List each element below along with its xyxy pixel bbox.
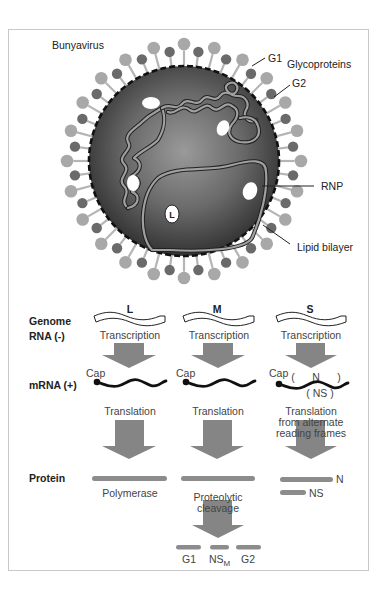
transcription-arrow-l [102, 343, 156, 368]
g2-glycoprotein-head [280, 198, 290, 208]
transcription-arrow-s [285, 343, 337, 368]
bunyavirus-diagram: L Bunyavirus G1 Glycoproteins G2 RNP Lip… [0, 0, 379, 598]
g2-glycoprotein-head [246, 69, 256, 79]
g1-glycoprotein-head [208, 42, 221, 55]
g2-glycoprotein-head [112, 69, 122, 79]
g1-glycoprotein-head [95, 237, 108, 250]
g1-product-label: G1 [182, 553, 196, 565]
g1-glycoprotein-head [147, 42, 160, 55]
polymerase-label: Polymerase [102, 487, 158, 499]
segment-s-column: S Transcription Cap ( N ) ( NS ) Transla… [269, 303, 348, 499]
translation-arrow-m [190, 420, 244, 459]
reading-frames-label-s: reading frames [276, 427, 346, 439]
ns-product-label: NS [309, 487, 324, 499]
mrna-strand-m [186, 380, 255, 387]
ns-protein-bar [280, 490, 306, 495]
transcription-label-s: Transcription [281, 329, 341, 341]
g2-glycoprotein-head [221, 54, 231, 64]
g2-glycoprotein-head [77, 114, 87, 124]
g1-glycoprotein-head [76, 96, 89, 109]
lipid-bilayer-label: Lipid bilayer [297, 241, 354, 253]
nsm-protein-bar [210, 545, 229, 550]
polymerase-protein-bar [92, 476, 167, 481]
segment-l-label: L [127, 303, 134, 315]
g2-glycoprotein-head [77, 198, 87, 208]
glycoproteins-label: Glycoproteins [287, 58, 351, 70]
g2-glycoprotein-head [288, 141, 298, 151]
m-polyprotein-bar [181, 476, 255, 481]
g1-protein-bar [176, 545, 201, 550]
g2-glycoprotein-head [70, 170, 80, 180]
cap-label-m: Cap [176, 367, 195, 379]
genome-rna-row-label: RNA (-) [29, 330, 65, 342]
g1-glycoprotein-head [260, 237, 273, 250]
transcription-label-m: Transcription [189, 329, 249, 341]
n-product-label: N [336, 473, 344, 485]
g1-glycoprotein-head [279, 213, 292, 226]
cap-label-s: Cap [269, 367, 288, 379]
g2-product-label: G2 [241, 553, 255, 565]
g2-glycoprotein-head [137, 54, 147, 64]
protein-row-label: Protein [29, 472, 65, 484]
segment-m-label: M [213, 303, 222, 315]
g1-label: G1 [268, 52, 282, 64]
nsm-subscript: M [224, 559, 231, 568]
g2-protein-bar [236, 545, 261, 550]
g1-glycoprotein-head [178, 38, 191, 51]
g1-glycoprotein-head [147, 268, 160, 281]
g1-glycoprotein-head [95, 72, 108, 85]
transcription-label-l: Transcription [100, 329, 160, 341]
g1-glycoprotein-head [236, 53, 249, 66]
g1-glycoprotein-head [119, 256, 132, 269]
n-protein-oval [142, 97, 160, 109]
g2-label: G2 [292, 77, 306, 89]
g2-glycoprotein-head [280, 114, 290, 124]
g1-glycoprotein-head [65, 185, 78, 198]
segment-l-column: L Transcription Cap Translation Polymera… [86, 303, 167, 499]
g2-glycoprotein-head [164, 47, 174, 57]
translation-label-l: Translation [104, 405, 156, 417]
nsm-main-text: NS [209, 553, 224, 565]
translation-arrow-l [102, 420, 156, 459]
g1-glycoprotein-head [295, 155, 308, 168]
g2-glycoprotein-head [137, 257, 147, 267]
g1-glycoprotein-head [291, 185, 304, 198]
mrna-strand-l [97, 380, 166, 387]
transcription-arrow-m [191, 343, 245, 368]
n-protein-bar [280, 477, 333, 482]
g1-glycoprotein-head [61, 155, 74, 168]
g1-glycoprotein-head [279, 96, 292, 109]
g1-glycoprotein-head [178, 272, 191, 285]
g2-glycoprotein-head [70, 141, 80, 151]
genome-row-label: Genome [29, 315, 71, 327]
g2-glycoprotein-head [288, 170, 298, 180]
g2-glycoprotein-head [92, 89, 102, 99]
g2-glycoprotein-head [193, 47, 203, 57]
virus-title: Bunyavirus [52, 39, 104, 51]
mrna-row-label: mRNA (+) [29, 379, 77, 391]
g1-glycoprotein-head [236, 256, 249, 269]
translation-label-m: Translation [192, 405, 244, 417]
g2-glycoprotein-head [193, 265, 203, 275]
nsm-product-label: NSM [209, 553, 231, 568]
g1-glycoprotein-head [119, 53, 132, 66]
cleavage-label: cleavage [197, 502, 239, 514]
polymerase-marker-label: L [169, 210, 175, 220]
g1-glycoprotein-head [65, 124, 78, 137]
g2-glycoprotein-head [266, 89, 276, 99]
cap-label-l: Cap [86, 367, 105, 379]
g1-glycoprotein-head [76, 213, 89, 226]
g2-glycoprotein-head [112, 243, 122, 253]
rnp-label: RNP [321, 180, 343, 192]
ns-orf-label: ( NS ) [306, 387, 333, 399]
g1-leader-line [252, 58, 265, 66]
g2-glycoprotein-head [164, 265, 174, 275]
segment-s-label: S [306, 303, 313, 315]
g2-glycoprotein-head [92, 223, 102, 233]
g1-glycoprotein-head [291, 124, 304, 137]
g2-leader-line [274, 85, 290, 97]
g1-glycoprotein-head [208, 268, 221, 281]
g2-glycoprotein-head [221, 257, 231, 267]
g1-glycoprotein-head [260, 72, 273, 85]
n-protein-oval [127, 175, 139, 191]
